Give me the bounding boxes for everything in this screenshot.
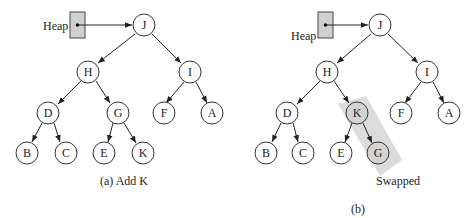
svg-text:J: J — [142, 18, 147, 32]
swapped-annotation: Swapped — [376, 174, 420, 188]
node-C-b: C — [292, 142, 314, 164]
svg-text:I: I — [425, 65, 429, 79]
caption-b: (b) — [351, 202, 365, 216]
panel-a: Heap J H I D G F A B C E K (a) Add K — [16, 12, 223, 188]
svg-text:D: D — [283, 106, 292, 120]
node-C-a: C — [55, 142, 77, 164]
node-F-a: F — [153, 102, 175, 124]
node-G-a: G — [107, 102, 129, 124]
svg-text:H: H — [84, 65, 93, 79]
svg-text:K: K — [353, 106, 362, 120]
svg-text:G: G — [374, 146, 383, 160]
node-D-a: D — [37, 102, 59, 124]
svg-text:J: J — [378, 18, 383, 32]
heap-label-b: Heap — [291, 29, 316, 43]
node-E-a: E — [93, 142, 115, 164]
svg-text:F: F — [398, 106, 405, 120]
node-H-b: H — [316, 61, 338, 83]
svg-text:E: E — [337, 146, 344, 160]
node-K-a: K — [132, 142, 154, 164]
svg-text:C: C — [299, 146, 307, 160]
svg-text:D: D — [44, 106, 53, 120]
node-D-b: D — [276, 102, 298, 124]
heap-label-a: Heap — [43, 19, 68, 33]
node-J-b: J — [369, 14, 391, 36]
heap-diagram: Heap J H I D G F A B C E K (a) Add K Hea… — [0, 0, 470, 218]
svg-text:C: C — [62, 146, 70, 160]
node-A-b: A — [438, 102, 460, 124]
node-G-b: G — [367, 142, 389, 164]
node-K-b: K — [346, 102, 368, 124]
node-B-b: B — [255, 142, 277, 164]
svg-text:H: H — [323, 65, 332, 79]
node-A-a: A — [201, 102, 223, 124]
node-B-a: B — [16, 142, 38, 164]
node-H-a: H — [77, 61, 99, 83]
svg-text:B: B — [262, 146, 270, 160]
node-E-b: E — [330, 142, 352, 164]
svg-text:K: K — [139, 146, 148, 160]
node-I-a: I — [179, 61, 201, 83]
svg-text:A: A — [445, 106, 454, 120]
svg-text:A: A — [208, 106, 217, 120]
node-F-b: F — [390, 102, 412, 124]
svg-text:E: E — [100, 146, 107, 160]
svg-text:B: B — [23, 146, 31, 160]
panel-b: Heap J H I D K F A B C E G Swapped (b) — [255, 12, 460, 216]
node-J-a: J — [133, 14, 155, 36]
svg-text:F: F — [161, 106, 168, 120]
node-I-b: I — [416, 61, 438, 83]
svg-text:I: I — [188, 65, 192, 79]
caption-a: (a) Add K — [100, 174, 148, 188]
svg-text:G: G — [114, 106, 123, 120]
